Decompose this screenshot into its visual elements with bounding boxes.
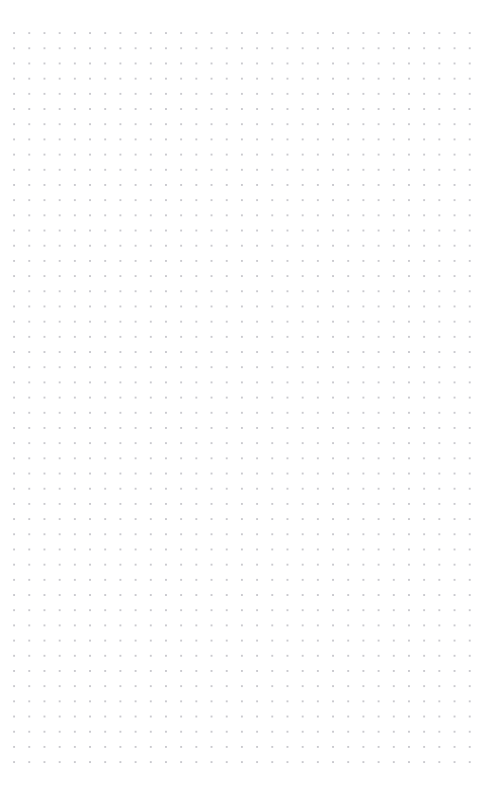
dot-grid-surface[interactable] xyxy=(0,0,501,794)
page-margin-bottom xyxy=(0,764,501,794)
page-margin-left xyxy=(0,0,13,794)
dot-grid-clip xyxy=(0,0,501,794)
page-canvas xyxy=(0,0,501,794)
page-margin-top xyxy=(0,0,501,32)
page-margin-right xyxy=(472,0,501,794)
